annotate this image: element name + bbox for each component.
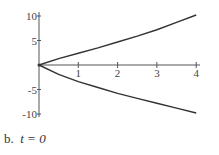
chart: 105-5-10 1234 xyxy=(0,0,219,130)
curve-upper xyxy=(39,15,196,65)
x-tick-label: 1 xyxy=(76,67,82,79)
chart-caption: b. t = 0 xyxy=(4,131,46,147)
y-tick-label: -5 xyxy=(28,84,38,96)
y-tick-label: -10 xyxy=(22,108,37,120)
y-tick-label: 5 xyxy=(32,35,38,47)
series xyxy=(38,15,197,113)
x-tick-label: 3 xyxy=(154,67,160,79)
caption-label: b. xyxy=(4,131,14,146)
x-tick-label: 4 xyxy=(193,67,199,79)
x-tick-label: 2 xyxy=(115,67,121,79)
origin-point xyxy=(38,64,41,67)
caption-math: t = 0 xyxy=(20,131,45,146)
y-tick-label: 10 xyxy=(26,10,38,22)
